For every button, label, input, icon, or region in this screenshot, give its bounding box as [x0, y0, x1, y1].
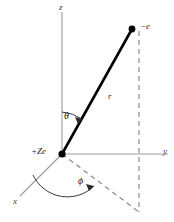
- radius-vector-label: r: [108, 92, 112, 101]
- nucleus-point-marker: [58, 150, 65, 157]
- phi-arc: [33, 175, 94, 197]
- nucleus-charge-label: +Ze: [31, 147, 46, 156]
- z-axis-label: z: [59, 3, 63, 12]
- x-axis-line: [20, 154, 62, 196]
- diagram-canvas: [0, 0, 174, 222]
- radius-vector-line: [62, 29, 132, 154]
- electron-point-marker: [129, 26, 136, 33]
- xy-plane-projection-dashed-line: [62, 154, 139, 212]
- phi-angle-label: ϕ: [78, 176, 83, 186]
- theta-angle-label: θ: [64, 111, 69, 121]
- x-axis-label: x: [13, 197, 17, 206]
- electron-charge-label: −e: [140, 22, 150, 31]
- spherical-coordinate-figure: z y x +Ze −e θ ϕ r: [0, 0, 174, 222]
- y-axis-label: y: [163, 147, 167, 156]
